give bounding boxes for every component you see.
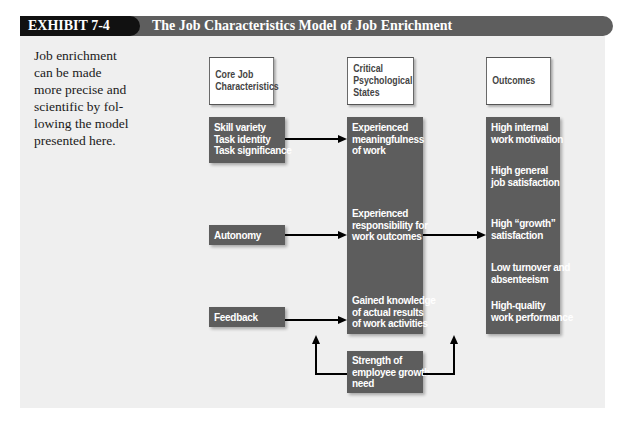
outcome-item: High-quality work performance — [491, 300, 573, 323]
heading-line: Psychological — [353, 75, 412, 87]
arrowhead-right-icon — [477, 231, 486, 239]
core-box-skill-task: Skill variety Task identity Task signifi… — [209, 117, 285, 163]
exhibit-title: The Job Characteristics Model of Job Enr… — [152, 16, 452, 36]
critical-heading: Critical Psychological States — [347, 57, 414, 105]
outcome-line: absenteeism — [491, 274, 570, 286]
exhibit-label: EXHIBIT 7-4 — [20, 16, 140, 36]
heading-line: Critical — [353, 63, 412, 75]
arrow-skill-to-meaningfulness — [285, 138, 339, 140]
intro-text: Job enrichment can be made more precise … — [34, 47, 154, 149]
arrow-states-to-outcomes — [423, 234, 478, 236]
outcome-item: Low turnover and absenteeism — [491, 262, 570, 285]
heading-line: Core Job — [215, 69, 279, 81]
core-item: Feedback — [214, 312, 280, 324]
intro-line: can be made — [34, 64, 154, 81]
core-box-autonomy: Autonomy — [209, 225, 285, 245]
arrowhead-right-icon — [338, 231, 347, 239]
outcomes-column: High internal work motivation High gener… — [486, 117, 560, 334]
outcome-line: job satisfaction — [491, 177, 560, 189]
outcome-line: work performance — [491, 312, 573, 324]
state-responsibility: Experienced responsibility for work outc… — [352, 208, 428, 243]
intro-line: scientific by fol- — [34, 98, 154, 115]
core-item: Task significance — [214, 145, 280, 157]
arrowhead-right-icon — [338, 316, 347, 324]
critical-states-column: Experienced meaningfulness of work Exper… — [347, 117, 423, 334]
moderator-arrow-right-horizontal — [423, 373, 455, 375]
moderator-arrow-right-vertical — [453, 343, 455, 375]
core-heading: Core Job Characteristics — [209, 57, 274, 105]
heading-line: Outcomes — [492, 75, 535, 87]
moderator-box: Strength of employee growth need — [347, 351, 423, 393]
outcome-item: High general job satisfaction — [491, 165, 560, 188]
intro-line: Job enrichment — [34, 47, 154, 64]
intro-line: lowing the model — [34, 115, 154, 132]
state-line: Experienced — [352, 208, 428, 220]
moderator-line: employee growth — [352, 367, 418, 379]
outcome-line: High internal — [491, 122, 563, 134]
arrow-autonomy-to-responsibility — [285, 234, 339, 236]
state-meaningfulness: Experienced meaningfulness of work — [352, 122, 424, 157]
intro-line: more precise and — [34, 81, 154, 98]
arrow-feedback-to-knowledge — [285, 319, 339, 321]
state-line: work outcomes — [352, 231, 428, 243]
outcome-line: High general — [491, 165, 560, 177]
state-line: Experienced — [352, 122, 424, 134]
state-knowledge: Gained knowledge of actual results of wo… — [352, 295, 436, 330]
outcomes-heading: Outcomes — [486, 57, 551, 105]
outcome-line: High “growth” — [491, 218, 555, 230]
moderator-arrow-left-vertical — [315, 343, 317, 375]
outcome-line: High-quality — [491, 300, 573, 312]
intro-line: presented here. — [34, 132, 154, 149]
outcome-line: satisfaction — [491, 230, 555, 242]
state-line: of work activities — [352, 318, 436, 330]
heading-line: Characteristics — [215, 81, 279, 93]
state-line: of actual results — [352, 307, 436, 319]
moderator-line: Strength of — [352, 355, 418, 367]
core-item: Task identity — [214, 134, 280, 146]
moderator-line: need — [352, 378, 418, 390]
outcome-line: Low turnover and — [491, 262, 570, 274]
heading-line: States — [353, 87, 412, 99]
core-item: Skill variety — [214, 122, 280, 134]
core-box-feedback: Feedback — [209, 307, 285, 327]
state-line: Gained knowledge — [352, 295, 436, 307]
arrowhead-up-icon — [450, 335, 458, 344]
core-item: Autonomy — [214, 230, 280, 242]
outcome-line: work motivation — [491, 134, 563, 146]
outcome-item: High “growth” satisfaction — [491, 218, 555, 241]
state-line: meaningfulness — [352, 134, 424, 146]
state-line: responsibility for — [352, 220, 428, 232]
arrowhead-up-icon — [312, 335, 320, 344]
outcome-item: High internal work motivation — [491, 122, 563, 145]
state-line: of work — [352, 145, 424, 157]
arrowhead-right-icon — [338, 135, 347, 143]
moderator-arrow-left-horizontal — [315, 373, 347, 375]
